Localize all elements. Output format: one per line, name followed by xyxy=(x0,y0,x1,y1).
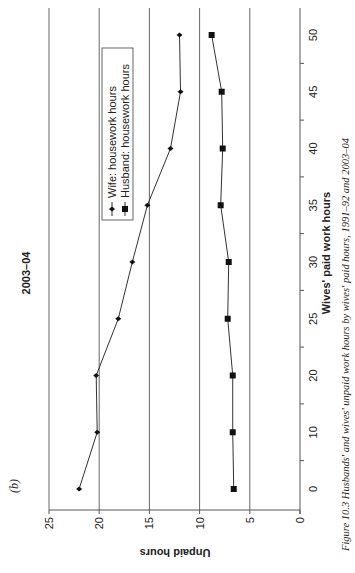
y-tick-label: 25 xyxy=(43,517,55,529)
x-tick-label: 35 xyxy=(307,199,319,211)
axes: 051015202501020253035404550 xyxy=(43,8,319,529)
x-tick-label: 10 xyxy=(307,426,319,438)
x-axis-label: Wives' paid work hours xyxy=(320,192,332,314)
square-marker xyxy=(225,316,231,322)
square-marker xyxy=(226,259,232,265)
diamond-marker xyxy=(129,260,135,265)
x-tick-label: 45 xyxy=(307,86,319,98)
x-tick-label: 40 xyxy=(307,142,319,154)
line-chart: 051015202501020253035404550 Wife: housew… xyxy=(0,0,355,573)
x-tick-label: 25 xyxy=(307,313,319,325)
diamond-marker xyxy=(167,146,173,151)
legend: Wife: housework hoursHusband: housework … xyxy=(102,48,133,220)
x-tick-label: 20 xyxy=(307,369,319,381)
square-marker xyxy=(219,89,225,95)
square-marker xyxy=(230,429,236,435)
y-tick-label: 20 xyxy=(93,517,105,529)
figure-caption: Figure 10.3 Husbands' and wives' unpaid … xyxy=(340,137,351,552)
square-marker xyxy=(231,486,237,492)
x-tick-label: 30 xyxy=(307,256,319,268)
square-marker xyxy=(218,202,224,208)
x-tick-label: 0 xyxy=(307,486,319,492)
rotated-chart-stage: 051015202501020253035404550 Wife: housew… xyxy=(0,0,355,573)
diamond-marker xyxy=(93,373,99,378)
x-tick-label: 50 xyxy=(307,29,319,41)
panel-label: (b) xyxy=(7,479,21,493)
diamond-marker xyxy=(178,89,184,94)
y-tick-label: 5 xyxy=(244,517,256,523)
y-tick-label: 10 xyxy=(194,517,206,529)
square-marker xyxy=(230,373,236,379)
y-tick-label: 15 xyxy=(143,517,155,529)
diamond-marker xyxy=(177,33,183,38)
series-lines xyxy=(76,32,237,492)
legend-entry-label: Wife: housework hours xyxy=(106,86,118,198)
diamond-marker xyxy=(115,316,121,321)
legend-square-marker xyxy=(122,206,128,212)
square-marker xyxy=(209,32,215,38)
square-marker xyxy=(220,146,226,152)
legend-entry-label: Husband: housework hours xyxy=(119,64,131,198)
chart-title: 2003–04 xyxy=(20,251,32,295)
y-axis-label: Unpaid hours xyxy=(140,547,211,559)
gridlines xyxy=(49,8,250,510)
diamond-marker xyxy=(76,487,82,492)
y-tick-label: 0 xyxy=(294,517,306,523)
